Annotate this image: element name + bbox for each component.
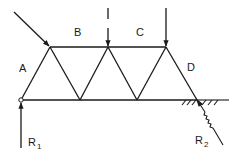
r2-line-top	[213, 128, 223, 145]
reaction-r2: R2	[195, 100, 223, 149]
pin-support-icon	[19, 98, 23, 102]
web-member	[166, 47, 197, 100]
hatch	[214, 100, 218, 105]
inclined-load-arrow	[14, 12, 49, 46]
ground-support	[182, 100, 229, 105]
web-member	[108, 47, 137, 100]
hatch	[208, 100, 212, 105]
hatch	[187, 100, 191, 105]
web-member	[137, 47, 166, 100]
zone-label-c: C	[136, 26, 144, 38]
r1-label: R1	[28, 136, 42, 151]
zone-label-b: B	[74, 26, 81, 38]
reaction-r1: R1	[19, 98, 42, 151]
truss-members	[21, 47, 197, 100]
zone-label-a: A	[19, 62, 27, 74]
truss-diagram: R1 R2 A B C D	[0, 0, 240, 159]
web-member	[80, 47, 108, 100]
hatch	[182, 100, 186, 105]
web-member	[50, 47, 80, 100]
zone-label-d: D	[187, 61, 195, 73]
spring-icon	[204, 112, 213, 128]
r2-arrowhead	[197, 100, 202, 106]
r2-label: R2	[195, 134, 209, 149]
hatch	[192, 100, 196, 105]
